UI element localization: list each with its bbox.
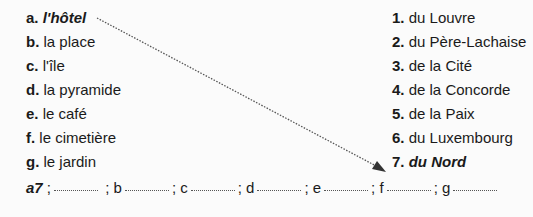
left-item: e. le café [26, 105, 87, 123]
item-text: l'hôtel [43, 9, 87, 26]
item-label: 7. [392, 153, 405, 170]
item-label: 5. [392, 105, 405, 122]
item-text: le jardin [44, 153, 97, 170]
right-item: 6. du Luxembourg [392, 129, 513, 147]
item-label: 2. [392, 33, 405, 50]
right-item: 2. du Père-Lachaise [392, 33, 526, 51]
answer-blank-g[interactable] [453, 190, 497, 191]
answer-letter: g [442, 179, 450, 196]
right-item: 7. du Nord [392, 153, 466, 171]
left-item: g. le jardin [26, 153, 96, 171]
item-label: c. [26, 57, 39, 74]
item-text: du Luxembourg [409, 129, 513, 146]
answer-letter: f [379, 179, 383, 196]
answer-blank-d[interactable] [257, 190, 301, 191]
left-item: b. la place [26, 33, 95, 51]
answer-letter: c [180, 179, 188, 196]
item-label: 6. [392, 129, 405, 146]
item-text: la pyramide [44, 81, 122, 98]
item-label: 4. [392, 81, 405, 98]
left-item: f. le cimetière [26, 129, 116, 147]
answer-blank-b[interactable] [125, 190, 169, 191]
right-item: 3. de la Cité [392, 57, 472, 75]
item-text: la place [44, 33, 96, 50]
answer-blank-e[interactable] [324, 190, 368, 191]
item-text: de la Concorde [409, 81, 511, 98]
right-item: 5. de la Paix [392, 105, 475, 123]
item-label: a. [26, 9, 39, 26]
answer-blank-c[interactable] [191, 190, 235, 191]
right-item: 4. de la Concorde [392, 81, 510, 99]
item-text: le cimetière [39, 129, 116, 146]
item-label: e. [26, 105, 39, 122]
item-text: l'île [43, 57, 65, 74]
answer-blank-a[interactable] [54, 190, 98, 191]
item-text: du Louvre [409, 9, 476, 26]
left-item: a. l'hôtel [26, 9, 86, 27]
answer-example: a7 [26, 179, 43, 196]
answer-letter: e [313, 179, 321, 196]
item-text: de la Paix [409, 105, 475, 122]
answer-blank-f[interactable] [387, 190, 431, 191]
item-label: 1. [392, 9, 405, 26]
item-label: g. [26, 153, 39, 170]
item-label: f. [26, 129, 35, 146]
item-text: de la Cité [409, 57, 472, 74]
item-label: 3. [392, 57, 405, 74]
right-item: 1. du Louvre [392, 9, 475, 27]
left-item: c. l'île [26, 57, 65, 75]
answer-letter: b [114, 179, 122, 196]
left-item: d. la pyramide [26, 81, 121, 99]
item-label: b. [26, 33, 39, 50]
answer-letter: d [246, 179, 254, 196]
item-label: d. [26, 81, 39, 98]
item-text: le café [43, 105, 87, 122]
item-text: du Père-Lachaise [409, 33, 527, 50]
item-text: du Nord [409, 153, 467, 170]
answer-line: a7 ; ; b; c; d; e; f; g [26, 179, 500, 197]
